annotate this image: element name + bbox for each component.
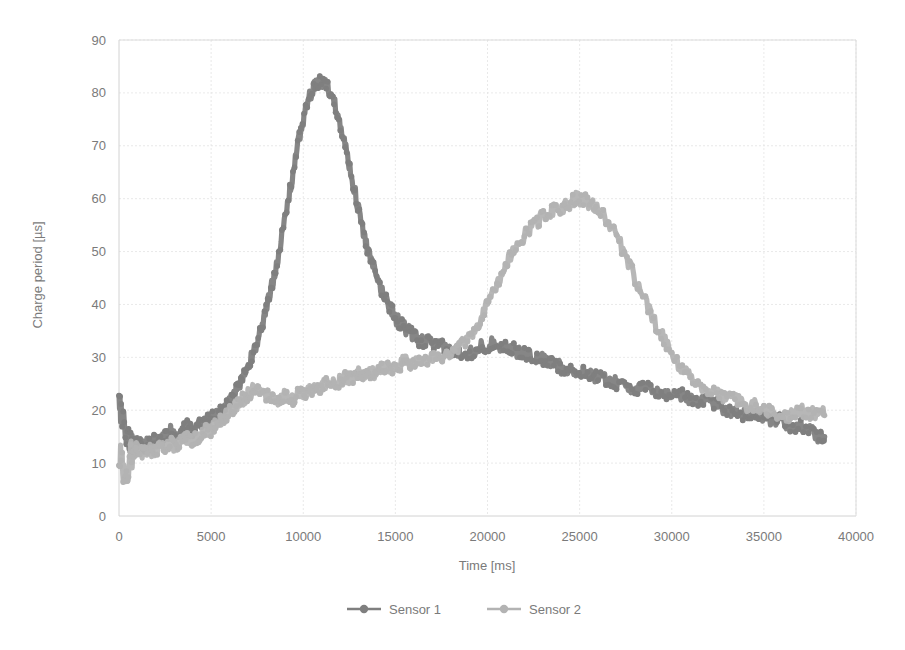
data-point [545, 363, 551, 369]
data-point [281, 225, 287, 231]
data-point [399, 316, 405, 322]
data-point [611, 223, 617, 229]
data-point [128, 430, 134, 436]
data-point [301, 111, 307, 117]
chart-svg: 0102030405060708090 05000100001500020000… [0, 0, 905, 650]
data-point [202, 433, 208, 439]
data-point [481, 312, 487, 318]
data-point [534, 351, 540, 357]
data-point [390, 371, 396, 377]
data-point [526, 347, 532, 353]
y-tick-label: 10 [92, 456, 106, 471]
data-point [418, 337, 424, 343]
gridlines-group [119, 40, 856, 516]
data-point [154, 452, 160, 458]
data-point [352, 188, 358, 194]
data-point [262, 308, 268, 314]
data-point [320, 387, 326, 393]
data-point [629, 263, 635, 269]
legend-label: Sensor 2 [529, 602, 581, 617]
data-point [159, 442, 165, 448]
legend-marker-icon [360, 605, 368, 613]
data-point [580, 202, 586, 208]
data-point [284, 389, 290, 395]
data-point [553, 202, 559, 208]
data-point [798, 406, 804, 412]
data-point [325, 79, 331, 85]
data-point [227, 403, 233, 409]
data-point [547, 213, 553, 219]
data-point [708, 392, 714, 398]
data-point [263, 302, 269, 308]
y-tick-label: 20 [92, 403, 106, 418]
legend-label: Sensor 1 [389, 602, 441, 617]
data-point [669, 350, 675, 356]
data-point [260, 325, 266, 331]
data-point [570, 192, 576, 198]
data-point [656, 329, 662, 335]
x-tick-label: 15000 [377, 529, 413, 544]
data-point [379, 360, 385, 366]
data-point [356, 206, 362, 212]
data-point [492, 287, 498, 293]
series-line-2 [119, 192, 825, 482]
data-point [274, 263, 280, 269]
y-tick-label: 60 [92, 191, 106, 206]
x-tick-label: 20000 [469, 529, 505, 544]
x-tick-label: 5000 [197, 529, 226, 544]
data-point [585, 195, 591, 201]
x-tick-label: 35000 [746, 529, 782, 544]
data-point [333, 109, 339, 115]
x-tick-label: 10000 [285, 529, 321, 544]
data-point [787, 429, 793, 435]
data-point [422, 343, 428, 349]
chart-container: 0102030405060708090 05000100001500020000… [0, 0, 905, 650]
data-point [120, 409, 126, 415]
data-point [353, 201, 359, 207]
data-point [505, 263, 511, 269]
data-point [534, 215, 540, 221]
data-point [350, 380, 356, 386]
data-point [192, 430, 198, 436]
x-tick-label: 40000 [838, 529, 874, 544]
data-point [756, 416, 762, 422]
data-point [284, 210, 290, 216]
data-point [821, 438, 827, 444]
legend-item-2[interactable]: Sensor 2 [487, 602, 581, 617]
data-point [377, 279, 383, 285]
data-point [500, 269, 506, 275]
data-point [118, 457, 124, 463]
data-point [412, 328, 418, 334]
legend-item-1[interactable]: Sensor 1 [347, 602, 441, 617]
data-point [621, 249, 627, 255]
data-point [126, 474, 132, 480]
data-point [732, 396, 738, 402]
y-tick-label: 70 [92, 138, 106, 153]
data-point [650, 315, 656, 321]
data-point [255, 383, 261, 389]
data-point [119, 450, 125, 456]
data-point [595, 377, 601, 383]
data-point [146, 436, 152, 442]
data-point [803, 424, 809, 430]
data-point [576, 198, 582, 204]
data-point [293, 394, 299, 400]
data-point [137, 452, 143, 458]
data-point [614, 386, 620, 392]
data-point [806, 407, 812, 413]
data-point [467, 348, 473, 354]
data-point [488, 294, 494, 300]
data-point [693, 395, 699, 401]
y-tick-label: 40 [92, 297, 106, 312]
data-point [323, 86, 329, 92]
data-point [270, 285, 276, 291]
data-point [714, 390, 720, 396]
data-point [347, 161, 353, 167]
data-point [711, 406, 717, 412]
data-point [737, 409, 743, 415]
data-point [167, 444, 173, 450]
data-point [519, 240, 525, 246]
data-point [674, 354, 680, 360]
data-point [593, 204, 599, 210]
data-point [266, 297, 272, 303]
